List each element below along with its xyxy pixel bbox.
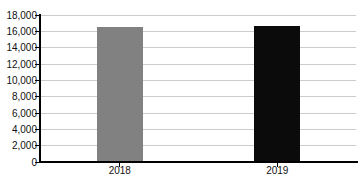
gridline (41, 80, 356, 81)
y-axis-tick-label: 4,000 (0, 124, 37, 135)
bar-2018 (97, 27, 143, 162)
x-axis-category-label: 2018 (90, 165, 150, 177)
gridline (41, 113, 356, 114)
y-axis-tick-label: 0 (0, 157, 37, 168)
bar-2019 (254, 26, 300, 162)
plot-area (41, 15, 356, 162)
gridline (41, 15, 356, 16)
y-axis-tick-label: 16,000 (0, 26, 37, 37)
y-axis-tick-label: 6,000 (0, 108, 37, 119)
gridline (41, 145, 356, 146)
gridline (41, 64, 356, 65)
gridline (41, 31, 356, 32)
gridline (41, 129, 356, 130)
y-axis-tick-label: 14,000 (0, 42, 37, 53)
gridline (41, 96, 356, 97)
y-axis-tick-label: 12,000 (0, 59, 37, 70)
y-axis-line (39, 14, 41, 163)
y-axis-tick-label: 10,000 (0, 75, 37, 86)
gridline (41, 47, 356, 48)
y-axis-tick-label: 18,000 (0, 10, 37, 21)
y-axis-tick-label: 8,000 (0, 91, 37, 102)
y-axis-tick-label: 2,000 (0, 140, 37, 151)
x-axis-category-label: 2019 (247, 165, 307, 177)
bar-chart: 02,0004,0006,0008,00010,00012,00014,0001… (0, 0, 361, 189)
x-axis-line (39, 161, 358, 163)
